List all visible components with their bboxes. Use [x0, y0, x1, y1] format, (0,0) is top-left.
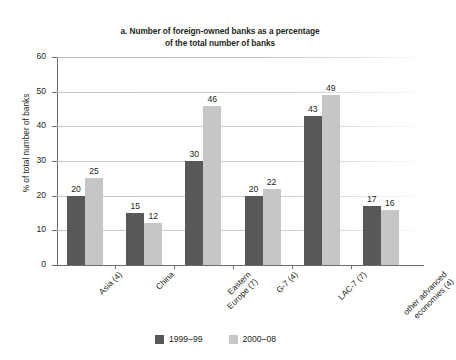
x-tick: [233, 265, 234, 269]
legend-swatch: [229, 335, 238, 344]
bar: [304, 116, 322, 265]
bar: [322, 95, 340, 265]
bar-value-label: 16: [375, 198, 405, 208]
category-label: G-7 (4): [274, 270, 299, 295]
y-tick-label-10: 10: [14, 224, 46, 234]
category-label: EasternEurope (7): [219, 270, 260, 311]
legend-swatch: [155, 335, 164, 344]
bar-value-label: 46: [197, 94, 227, 104]
x-tick: [174, 265, 175, 269]
bar: [67, 196, 85, 265]
bar-value-label: 15: [120, 201, 150, 211]
y-tick-0: [52, 265, 57, 266]
bar: [85, 178, 103, 265]
bar-value-label: 12: [138, 211, 168, 221]
chart-title-line-1: a. Number of foreign-owned banks as a pe…: [40, 26, 400, 38]
x-axis-line: [57, 265, 424, 266]
category-label: other advancedeconomies (4): [402, 270, 456, 324]
chart-title-line-2: of the total number of banks: [40, 38, 400, 50]
y-tick-label-40: 40: [14, 120, 46, 130]
chart-title: a. Number of foreign-owned banks as a pe…: [40, 26, 400, 49]
bar: [363, 206, 381, 265]
bar: [203, 106, 221, 265]
y-tick-label-0: 0: [14, 259, 46, 269]
y-tick-label-60: 60: [14, 51, 46, 61]
bar-value-label: 49: [316, 83, 346, 93]
chart-legend: 1999–992000–08: [0, 334, 431, 344]
bar: [144, 223, 162, 265]
y-tick-label-30: 30: [14, 155, 46, 165]
x-tick: [351, 265, 352, 269]
category-label: LAC-7 (7): [336, 270, 368, 302]
y-tick-label-20: 20: [14, 190, 46, 200]
bar: [263, 189, 281, 265]
x-tick: [115, 265, 116, 269]
category-label: Asia (4): [97, 270, 124, 297]
bar: [381, 210, 399, 265]
bar: [245, 196, 263, 265]
category-label-line: LAC-7 (7): [336, 270, 368, 302]
bar-value-label: 22: [257, 177, 287, 187]
legend-item: 2000–08: [229, 334, 276, 344]
y-tick-label-50: 50: [14, 86, 46, 96]
legend-item: 1999–99: [155, 334, 202, 344]
legend-label: 2000–08: [243, 334, 276, 344]
plot-area: 202515123046202243491716: [57, 57, 424, 265]
category-label-line: Asia (4): [97, 270, 124, 297]
legend-label: 1999–99: [169, 334, 202, 344]
bar-value-label: 25: [79, 166, 109, 176]
category-label-line: G-7 (4): [274, 270, 299, 295]
category-label-line: China: [155, 270, 177, 292]
bar: [185, 161, 203, 265]
category-label: China: [155, 270, 177, 292]
